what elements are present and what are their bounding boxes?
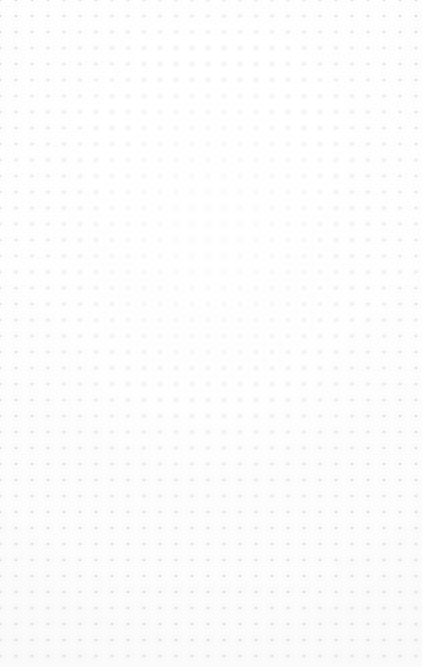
- canvas-background-surface: [0, 0, 422, 667]
- canvas-viewport[interactable]: [0, 0, 422, 667]
